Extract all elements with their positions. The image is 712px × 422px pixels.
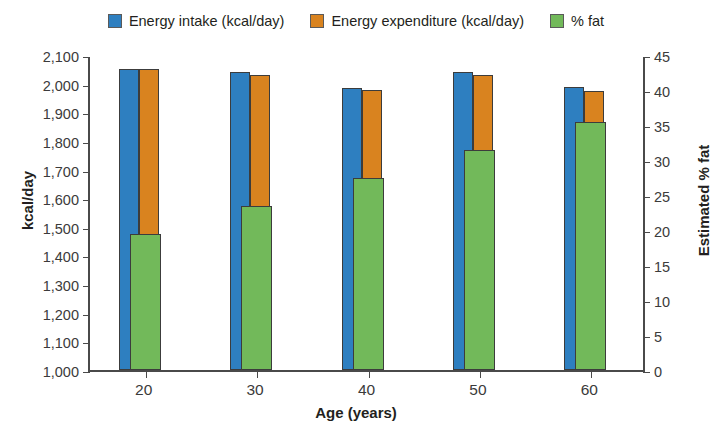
x-axis-tick bbox=[480, 370, 481, 378]
y-axis-right-tick bbox=[643, 92, 650, 93]
y-axis-left-tick-label: 1,700 bbox=[43, 164, 79, 179]
y-axis-left-tick bbox=[83, 143, 90, 144]
x-axis-tick-label: 30 bbox=[246, 382, 263, 398]
y-axis-right-tick-label: 35 bbox=[654, 120, 670, 135]
y-axis-right-tick bbox=[643, 372, 650, 373]
bar-percent-fat bbox=[464, 150, 495, 371]
bar-percent-fat bbox=[575, 122, 606, 371]
y-axis-right-tick-label: 20 bbox=[654, 225, 670, 240]
y-axis-left-tick bbox=[83, 172, 90, 173]
x-axis-tick bbox=[146, 370, 147, 378]
x-axis-tick bbox=[369, 370, 370, 378]
y-axis-left-tick-label: 1,100 bbox=[43, 336, 79, 351]
y-axis-left-tick-label: 1,000 bbox=[43, 365, 79, 380]
bar-chart: Energy intake (kcal/day)Energy expenditu… bbox=[0, 0, 712, 422]
bar-percent-fat bbox=[130, 234, 161, 371]
y-axis-right-tick-label: 0 bbox=[654, 365, 662, 380]
y-axis-left-tick-label: 1,400 bbox=[43, 250, 79, 265]
y-axis-right-tick bbox=[643, 57, 650, 58]
y-axis-right-tick bbox=[643, 197, 650, 198]
legend-item: % fat bbox=[550, 14, 604, 29]
bar-percent-fat bbox=[353, 178, 384, 371]
legend-item-label: Energy intake (kcal/day) bbox=[129, 14, 285, 29]
x-axis-tick-label: 50 bbox=[469, 382, 486, 398]
legend-swatch-blue bbox=[108, 14, 122, 28]
y-axis-left-tick-label: 2,000 bbox=[43, 78, 79, 93]
y-axis-left-tick bbox=[83, 257, 90, 258]
y-axis-left-tick bbox=[83, 343, 90, 344]
y-axis-right-tick-label: 25 bbox=[654, 190, 670, 205]
bar-group bbox=[450, 57, 510, 370]
x-axis-tick-label: 60 bbox=[581, 382, 598, 398]
legend-swatch-orange bbox=[310, 14, 324, 28]
y-axis-left-title: kcal/day bbox=[19, 171, 36, 230]
y-axis-right-tick bbox=[643, 232, 650, 233]
legend-item-label: % fat bbox=[571, 14, 604, 29]
y-axis-left-tick-label: 1,500 bbox=[43, 222, 79, 237]
legend-item: Energy intake (kcal/day) bbox=[108, 14, 285, 29]
y-axis-right-tick-label: 45 bbox=[654, 50, 670, 65]
bar-percent-fat bbox=[241, 206, 272, 371]
y-axis-left-tick-label: 1,900 bbox=[43, 107, 79, 122]
x-axis-title: Age (years) bbox=[0, 404, 712, 421]
y-axis-left-tick-label: 1,300 bbox=[43, 279, 79, 294]
y-axis-left-tick-label: 1,200 bbox=[43, 307, 79, 322]
y-axis-right-tick-label: 5 bbox=[654, 330, 662, 345]
y-axis-left-tick-label: 1,800 bbox=[43, 136, 79, 151]
plot-area: 1,0001,1001,2001,3001,4001,5001,6001,700… bbox=[88, 57, 645, 372]
bar-group bbox=[339, 57, 399, 370]
x-axis-tick bbox=[591, 370, 592, 378]
x-axis-tick-label: 20 bbox=[135, 382, 152, 398]
bar-group bbox=[116, 57, 176, 370]
y-axis-left-tick bbox=[83, 86, 90, 87]
bar-group bbox=[561, 57, 621, 370]
y-axis-right-tick bbox=[643, 162, 650, 163]
y-axis-right-tick bbox=[643, 337, 650, 338]
y-axis-left-tick bbox=[83, 372, 90, 373]
y-axis-left-tick-label: 1,600 bbox=[43, 193, 79, 208]
y-axis-left-tick bbox=[83, 229, 90, 230]
y-axis-right-tick bbox=[643, 127, 650, 128]
legend-item: Energy expenditure (kcal/day) bbox=[310, 14, 524, 29]
y-axis-left-tick bbox=[83, 286, 90, 287]
y-axis-right-tick bbox=[643, 302, 650, 303]
y-axis-left-tick bbox=[83, 57, 90, 58]
y-axis-left-tick-label: 2,100 bbox=[43, 50, 79, 65]
y-axis-left-tick bbox=[83, 200, 90, 201]
y-axis-right-tick-label: 15 bbox=[654, 260, 670, 275]
y-axis-left-tick bbox=[83, 114, 90, 115]
x-axis-tick-label: 40 bbox=[358, 382, 375, 398]
y-axis-right-tick bbox=[643, 267, 650, 268]
legend-item-label: Energy expenditure (kcal/day) bbox=[331, 14, 524, 29]
legend-swatch-green bbox=[550, 14, 564, 28]
y-axis-right-tick-label: 30 bbox=[654, 155, 670, 170]
x-axis-tick bbox=[257, 370, 258, 378]
y-axis-right-title: Estimated % fat bbox=[695, 145, 712, 257]
bar-group bbox=[227, 57, 287, 370]
y-axis-left-tick bbox=[83, 315, 90, 316]
y-axis-right-tick-label: 40 bbox=[654, 85, 670, 100]
y-axis-right-tick-label: 10 bbox=[654, 295, 670, 310]
chart-legend: Energy intake (kcal/day)Energy expenditu… bbox=[0, 6, 712, 36]
